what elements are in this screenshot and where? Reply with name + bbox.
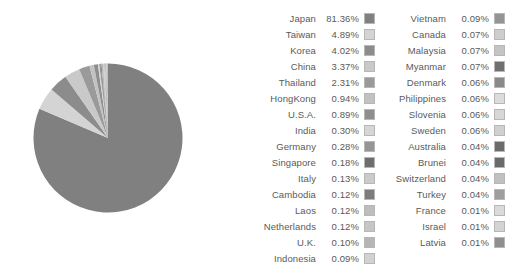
legend-row[interactable]: Laos0.12% [243,202,375,218]
legend-value: 2.31% [323,77,359,88]
legend-row[interactable]: Philippines0.06% [378,90,505,106]
legend-value: 0.09% [453,13,489,24]
legend-row[interactable]: China3.37% [243,58,375,74]
legend-row[interactable]: Netherlands0.12% [243,218,375,234]
legend-row[interactable]: U.K.0.10% [243,234,375,250]
legend-color-swatch [364,93,375,104]
legend-label: Latvia [378,237,446,248]
legend-value: 0.30% [323,125,359,136]
legend-color-swatch [494,141,505,152]
legend-color-swatch [364,221,375,232]
legend-label: Brunei [378,157,446,168]
legend-color-swatch [494,29,505,40]
legend-value: 81.36% [323,13,359,24]
legend-color-swatch [364,173,375,184]
legend-label: Thailand [243,77,316,88]
legend-color-swatch [494,13,505,24]
legend-label: Philippines [378,93,446,104]
legend-row[interactable]: Germany0.28% [243,138,375,154]
legend-label: Malaysia [378,45,446,56]
legend-value: 0.04% [453,173,489,184]
legend-value: 3.37% [323,61,359,72]
legend-row[interactable]: Japan81.36% [243,10,375,26]
legend-row[interactable]: Taiwan4.89% [243,26,375,42]
legend-row[interactable]: France0.01% [378,202,505,218]
legend-row[interactable]: Vietnam0.09% [378,10,505,26]
legend-label: Italy [243,173,316,184]
legend-value: 0.06% [453,77,489,88]
legend-label: Sweden [378,125,446,136]
legend-value: 0.04% [453,141,489,152]
legend-value: 0.01% [453,221,489,232]
legend-color-swatch [364,157,375,168]
legend-row[interactable]: Australia0.04% [378,138,505,154]
legend-row[interactable]: India0.30% [243,122,375,138]
legend-row[interactable]: Myanmar0.07% [378,58,505,74]
legend-color-swatch [494,173,505,184]
legend-row[interactable]: Indonesia0.09% [243,250,375,266]
legend-color-swatch [494,109,505,120]
legend-row[interactable]: HongKong0.94% [243,90,375,106]
legend-color-swatch [364,141,375,152]
legend-color-swatch [494,125,505,136]
legend-color-swatch [494,205,505,216]
legend-row[interactable]: Korea4.02% [243,42,375,58]
legend-color-swatch [364,125,375,136]
legend-color-swatch [364,61,375,72]
legend-value: 0.12% [323,189,359,200]
legend-color-swatch [364,205,375,216]
legend-row[interactable]: Cambodia0.12% [243,186,375,202]
legend-value: 0.01% [453,205,489,216]
legend-row[interactable]: Switzerland0.04% [378,170,505,186]
legend-label: Korea [243,45,316,56]
legend-row[interactable]: Sweden0.06% [378,122,505,138]
legend-row[interactable]: Canada0.07% [378,26,505,42]
legend-color-swatch [494,61,505,72]
legend-color-swatch [364,29,375,40]
legend-value: 0.01% [453,237,489,248]
legend-value: 4.89% [323,29,359,40]
pie-svg [33,63,183,213]
legend-label: HongKong [243,93,316,104]
legend-label: Vietnam [378,13,446,24]
legend-row[interactable]: Brunei0.04% [378,154,505,170]
legend-color-swatch [364,109,375,120]
legend-value: 0.09% [323,253,359,264]
legend-row[interactable]: Thailand2.31% [243,74,375,90]
legend-value: 0.28% [323,141,359,152]
legend-color-swatch [494,157,505,168]
legend-color-swatch [494,45,505,56]
legend-row[interactable]: Latvia0.01% [378,234,505,250]
legend-color-swatch [494,93,505,104]
legend-value: 0.10% [323,237,359,248]
legend-row[interactable]: Denmark0.06% [378,74,505,90]
legend-color-swatch [364,13,375,24]
legend-value: 0.06% [453,109,489,120]
legend-row[interactable]: U.S.A.0.89% [243,106,375,122]
legend-label: Israel [378,221,446,232]
legend-row[interactable]: Singapore0.18% [243,154,375,170]
legend-value: 0.18% [323,157,359,168]
legend-row[interactable]: Italy0.13% [243,170,375,186]
legend-label: Slovenia [378,109,446,120]
legend-row[interactable]: Slovenia0.06% [378,106,505,122]
legend-label: Myanmar [378,61,446,72]
legend-label: India [243,125,316,136]
legend-label: Denmark [378,77,446,88]
legend-value: 0.04% [453,157,489,168]
legend-value: 0.94% [323,93,359,104]
legend-color-swatch [364,189,375,200]
legend-value: 0.12% [323,221,359,232]
legend-row[interactable]: Malaysia0.07% [378,42,505,58]
legend-row[interactable]: Turkey0.04% [378,186,505,202]
legend-label: Australia [378,141,446,152]
legend-label: Cambodia [243,189,316,200]
legend-row[interactable]: Israel0.01% [378,218,505,234]
legend-value: 0.06% [453,93,489,104]
legend-color-swatch [364,237,375,248]
legend-value: 0.89% [323,109,359,120]
legend-value: 0.07% [453,29,489,40]
legend-label: France [378,205,446,216]
legend-value: 0.06% [453,125,489,136]
